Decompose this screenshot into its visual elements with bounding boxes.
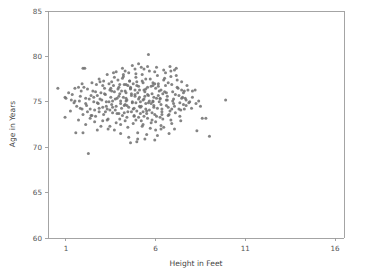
scatter-point [90,114,93,117]
scatter-point [204,117,207,120]
scatter-point [92,100,95,103]
scatter-point [195,129,198,132]
scatter-point [130,110,133,113]
scatter-point [175,74,178,77]
scatter-point [154,128,157,131]
scatter-point [138,89,141,92]
scatter-point [77,118,80,121]
scatter-point [95,83,98,86]
scatter-point [139,112,142,115]
x-axis-title: Height in Feet [169,259,222,268]
scatter-point [194,89,197,92]
scatter-point [160,103,163,106]
scatter-point [154,87,157,90]
scatter-point [148,69,151,72]
scatter-point [103,87,106,90]
scatter-point [183,108,186,111]
scatter-point [107,82,110,85]
scatter-point [162,79,165,82]
scatter-point [162,69,165,72]
scatter-point [145,112,148,115]
scatter-point [145,133,148,136]
scatter-point [98,78,101,81]
scatter-point [80,89,83,92]
scatter-point [111,106,114,109]
scatter-point [148,108,151,111]
scatter-point [122,73,125,76]
scatter-point [137,62,140,65]
scatter-point [166,95,169,98]
scatter-point [119,132,122,135]
scatter-point [131,64,134,67]
scatter-point [191,89,194,92]
scatter-point [157,85,160,88]
scatter-point [142,68,145,71]
scatter-point [92,96,95,99]
scatter-point [73,99,76,102]
scatter-chart-figure: 161116606570758085 Height in Feet Age in… [0,0,368,274]
y-tick-label: 60 [33,234,43,243]
scatter-point [115,70,118,73]
scatter-point [96,94,99,97]
scatter-point [136,91,139,94]
scatter-point [83,67,86,70]
scatter-point [142,98,145,101]
x-tick-label: 11 [241,244,250,253]
scatter-point [137,85,140,88]
scatter-point [104,110,107,113]
scatter-point [106,118,109,121]
scatter-point [138,96,141,99]
scatter-point [120,107,123,110]
x-tick-label: 16 [330,244,340,253]
scatter-point [180,80,183,83]
y-tick-label: 85 [33,7,42,16]
y-tick-label: 75 [33,97,42,106]
scatter-point [177,94,180,97]
scatter-point [107,128,110,131]
scatter-point [190,107,193,110]
scatter-point [110,80,113,83]
scatter-point [124,69,127,72]
scatter-point [84,123,87,126]
scatter-point [108,108,111,111]
scatter-point [109,87,112,90]
y-tick-label: 65 [33,188,42,197]
scatter-point [118,83,121,86]
scatter-point [71,93,74,96]
scatter-point [91,89,94,92]
scatter-point [88,98,91,101]
scatter-point [125,83,128,86]
y-tick-label: 80 [33,52,43,61]
scatter-point [103,92,106,95]
scatter-point [178,115,181,118]
scatter-point [134,118,137,121]
scatter-point [164,71,167,74]
scatter-point [137,116,140,119]
scatter-point [101,84,104,87]
scatter-point [122,96,125,99]
scatter-point [110,89,113,92]
scatter-point [112,84,115,87]
scatter-point [170,122,173,125]
scatter-point [160,113,163,116]
scatter-point [101,119,104,122]
scatter-point [151,118,154,121]
scatter-point [89,117,92,120]
scatter-point [102,113,105,116]
scatter-point [129,86,132,89]
scatter-point [67,91,70,94]
scatter-point [157,94,160,97]
scatter-point [173,105,176,108]
scatter-point [116,88,119,91]
scatter-point [105,100,108,103]
plot-area-background [48,11,344,238]
scatter-point [121,114,124,117]
scatter-point [132,122,135,125]
scatter-point [119,102,122,105]
scatter-point [79,95,82,98]
scatter-point [182,91,185,94]
scatter-point [114,108,117,111]
scatter-point [99,80,102,83]
scatter-point [132,82,135,85]
scatter-point [93,108,96,111]
